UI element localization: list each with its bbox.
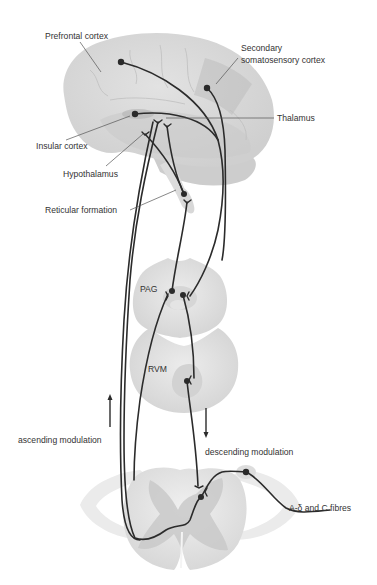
label-secondary-line1: Secondary [241, 43, 283, 53]
soma-somatosensory [204, 85, 210, 91]
label-descending-modulation: descending modulation [205, 447, 294, 457]
pain-pathway-diagram: Prefrontal cortex Secondary somatosensor… [0, 0, 377, 585]
soma-drg [243, 469, 249, 475]
label-secondary-line2: somatosensory cortex [241, 55, 326, 65]
medulla [130, 328, 239, 413]
soma-rvm [184, 378, 190, 384]
descending-arrow [204, 408, 209, 438]
label-pag: PAG [140, 284, 158, 294]
soma-pag-2 [180, 292, 186, 298]
arrow-up-icon [108, 394, 113, 400]
label-prefrontal-cortex: Prefrontal cortex [45, 31, 109, 41]
midbrain [133, 258, 227, 338]
aqueduct [170, 300, 186, 310]
label-ascending-modulation: ascending modulation [18, 435, 102, 445]
label-reticular-formation: Reticular formation [45, 205, 117, 215]
ascending-arrow [108, 394, 113, 427]
soma-pag-1 [169, 288, 175, 294]
soma-prefrontal [118, 59, 124, 65]
reticular-formation-region [179, 188, 194, 214]
ventral-fissure [181, 532, 182, 568]
soma-dorsal-horn [198, 494, 204, 500]
label-afferent-fibres: A-δ and C fibres [289, 503, 351, 513]
label-thalamus: Thalamus [277, 113, 315, 123]
label-insular-cortex: Insular cortex [36, 141, 88, 151]
label-rvm: RVM [148, 364, 167, 374]
arrow-down-icon [204, 432, 209, 438]
spinal-cord [80, 465, 300, 570]
soma-reticular [181, 191, 187, 197]
soma-insular [132, 111, 138, 117]
label-hypothalamus: Hypothalamus [63, 169, 118, 179]
